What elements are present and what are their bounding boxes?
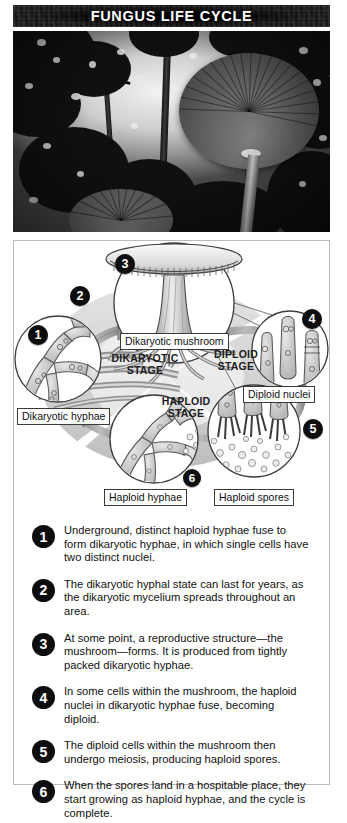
stage-label-dikaryotic: DIKARYOTIC STAGE — [97, 353, 193, 376]
list-item: 5 The diploid cells within the mushroom … — [14, 739, 329, 766]
step-number-badge: 6 — [32, 780, 55, 803]
diagram-marker-6: 6 — [183, 469, 201, 487]
page-title: FUNGUS LIFE CYCLE — [91, 8, 253, 24]
stage-haploid-line2: STAGE — [168, 407, 204, 419]
list-item: 6 When the spores land in a hospitable p… — [14, 779, 329, 820]
callout-dikaryotic-mushroom: Dikaryotic mushroom — [120, 333, 229, 350]
title-banner: FUNGUS LIFE CYCLE — [13, 5, 330, 27]
stage-label-diploid: DIPLOID STAGE — [198, 349, 274, 372]
list-item: 3 At some point, a reproductive structur… — [14, 632, 329, 673]
stage-haploid-line1: HAPLOID — [162, 395, 211, 407]
step-text: Underground, distinct haploid hyphae fus… — [64, 524, 309, 565]
list-item: 4 In some cells within the mushroom, the… — [14, 685, 329, 726]
step-number-badge: 1 — [32, 525, 55, 548]
life-cycle-diagram: DIKARYOTIC STAGE DIPLOID STAGE HAPLOID S… — [14, 241, 329, 523]
callout-dikaryotic-hyphae: Dikaryotic hyphae — [17, 408, 110, 425]
stage-label-haploid: HAPLOID STAGE — [148, 396, 224, 419]
step-number-badge: 2 — [32, 579, 55, 602]
callout-haploid-spores: Haploid spores — [214, 489, 294, 506]
diagram-marker-1: 1 — [28, 325, 48, 345]
stage-diploid-line2: STAGE — [218, 360, 254, 372]
diagram-artwork — [14, 241, 329, 523]
diagram-marker-5: 5 — [303, 419, 323, 439]
step-number-badge: 5 — [32, 740, 55, 763]
step-text: The diploid cells within the mushroom th… — [64, 739, 309, 766]
step-text: The dikaryotic hyphal state can last for… — [64, 578, 309, 619]
stage-dikaryotic-line2: STAGE — [127, 364, 163, 376]
photo-vignette — [13, 31, 330, 232]
diagram-marker-3: 3 — [115, 254, 135, 274]
step-text: In some cells within the mushroom, the h… — [64, 685, 309, 726]
callout-haploid-hyphae: Haploid hyphae — [104, 489, 187, 506]
diagram-marker-2: 2 — [70, 286, 90, 306]
stage-dikaryotic-line1: DIKARYOTIC — [112, 352, 179, 364]
diagram-marker-4: 4 — [302, 309, 322, 329]
step-text: When the spores land in a hospitable pla… — [64, 779, 309, 820]
step-number-badge: 3 — [32, 633, 55, 656]
list-item: 1 Underground, distinct haploid hyphae f… — [14, 524, 329, 565]
mushroom-photo — [13, 31, 330, 232]
step-text: At some point, a reproductive structure—… — [64, 632, 309, 673]
step-number-badge: 4 — [32, 686, 55, 709]
content-panel: DIKARYOTIC STAGE DIPLOID STAGE HAPLOID S… — [13, 240, 330, 785]
callout-diploid-nuclei: Diploid nuclei — [243, 386, 315, 403]
step-list: 1 Underground, distinct haploid hyphae f… — [14, 524, 329, 823]
list-item: 2 The dikaryotic hyphal state can last f… — [14, 578, 329, 619]
